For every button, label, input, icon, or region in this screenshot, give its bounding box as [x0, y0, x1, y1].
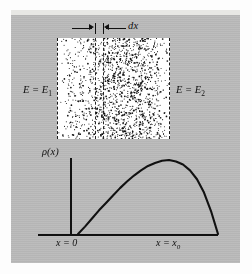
energy-label-right: E = E2: [176, 84, 205, 98]
x-tick-label-max: x = x0: [156, 237, 180, 251]
dx-strip-left-edge: [95, 38, 96, 139]
figure-canvas: dx E = E1 E = E2 ρ(x) x = 0 x = x0: [0, 0, 252, 274]
density-curve-path: [78, 160, 218, 234]
dx-strip-right-edge: [103, 38, 104, 139]
plate-top-highlight: [11, 10, 240, 15]
x-tick-label-max-text: x = x: [156, 237, 177, 248]
dx-right-arrow-line: [106, 28, 126, 29]
dx-left-arrowhead: [89, 24, 94, 30]
energy-label-left-text: E = E: [23, 84, 48, 95]
dx-right-arrowhead: [104, 24, 109, 30]
density-curve-svg: [30, 148, 225, 248]
stipple-dots: [58, 38, 169, 139]
dx-label: dx: [128, 20, 138, 31]
stipple-region: [57, 38, 170, 139]
x-tick-label-origin: x = 0: [56, 237, 77, 248]
density-plot: ρ(x) x = 0 x = x0: [30, 148, 225, 248]
dx-left-tick: [95, 23, 96, 34]
density-curve-wrapper: [30, 148, 225, 248]
dx-annotation: dx: [72, 20, 152, 38]
energy-label-left-sub: 1: [48, 89, 52, 98]
energy-label-left: E = E1: [23, 84, 52, 98]
energy-label-right-text: E = E: [176, 84, 201, 95]
x-tick-label-max-sub: 0: [177, 243, 181, 251]
energy-label-right-sub: 2: [201, 89, 205, 98]
